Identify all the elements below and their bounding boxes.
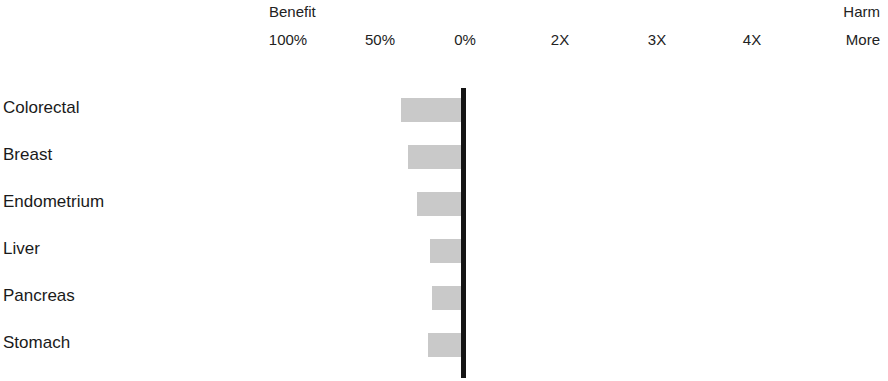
benefit-harm-chart: Benefit Harm 100%50%0%2X3X4XMore Colorec… — [0, 0, 888, 381]
bar-pancreas — [432, 286, 463, 310]
plot-area — [0, 0, 888, 381]
bar-endometrium — [417, 192, 463, 216]
bar-stomach — [428, 333, 463, 357]
bar-liver — [430, 239, 463, 263]
bar-breast — [408, 145, 463, 169]
bar-colorectal — [401, 98, 463, 122]
zero-reference-line — [461, 88, 466, 378]
